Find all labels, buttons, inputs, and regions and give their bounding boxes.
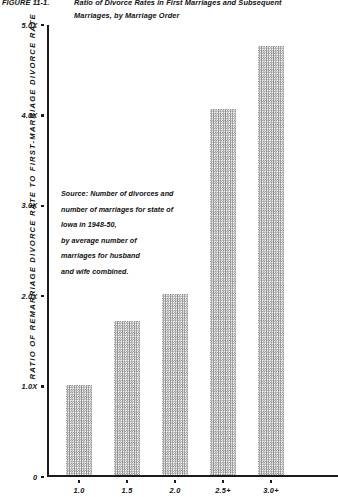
y-axis-tick-4: 4.0X: [0, 110, 47, 120]
bar-category-3[interactable]: [162, 294, 188, 475]
x-axis-tick-label: 3.0+: [246, 486, 296, 495]
source-note-line: marriages for husband: [61, 248, 221, 264]
x-axis-tick-3: 2.0: [150, 477, 200, 495]
tick-dot-icon: [41, 476, 44, 479]
x-axis-tick-label: 1.5: [102, 486, 152, 495]
y-axis-title: RATIO OF REMARRIAGE DIVORCE RATE TO FIRS…: [28, 80, 37, 380]
tick-dot-icon: [174, 480, 177, 483]
x-axis-tick-label: 2.5+: [198, 486, 248, 495]
x-axis-tick-label: 1.0: [54, 486, 104, 495]
tick-dot-icon: [222, 480, 225, 483]
tick-dot-icon: [41, 205, 44, 208]
bar-category-4[interactable]: [210, 109, 236, 475]
source-note-line: Iowa in 1948-50,: [61, 217, 221, 233]
x-axis-tick-4: 2.5+: [198, 477, 248, 495]
y-axis-tick-label: 0: [33, 473, 37, 482]
source-note-line: number of marriages for state of: [61, 202, 221, 218]
tick-dot-icon: [41, 24, 44, 27]
x-axis-tick-1: 1.0: [54, 477, 104, 495]
y-axis-tick-5: 5.0X: [0, 20, 47, 30]
x-axis-tick-label: 2.0: [150, 486, 200, 495]
source-note: Source: Number of divorces and number of…: [61, 186, 221, 279]
tick-dot-icon: [270, 480, 273, 483]
tick-dot-icon: [41, 114, 44, 117]
y-axis-line: [47, 25, 49, 477]
y-axis-tick-label: 2.0X: [21, 292, 37, 301]
y-axis-tick-label: 4.0X: [21, 111, 37, 120]
y-axis-tick-1: 1.0X: [0, 382, 47, 392]
source-note-line: by average number of: [61, 233, 221, 249]
bar-category-5[interactable]: [258, 46, 284, 475]
figure-title-line-2: Marriages, by Marriage Order: [74, 11, 180, 20]
x-axis-tick-5: 3.0+: [246, 477, 296, 495]
tick-dot-icon: [78, 480, 81, 483]
tick-dot-icon: [126, 480, 129, 483]
y-axis-tick-label: 1.0X: [21, 382, 37, 391]
x-axis-tick-2: 1.5: [102, 477, 152, 495]
source-note-line: Source: Number of divorces and: [61, 186, 221, 202]
tick-dot-icon: [41, 385, 44, 388]
bar-category-1[interactable]: [66, 385, 92, 475]
y-axis-tick-0: 0: [0, 472, 47, 482]
source-note-line: and wife combined.: [61, 264, 221, 280]
y-axis-tick-label: 5.0X: [21, 21, 37, 30]
figure-number-label: FIGURE 11-1.: [2, 0, 49, 7]
figure-title-line-1: Ratio of Divorce Rates in First Marriage…: [74, 0, 282, 7]
bar-category-2[interactable]: [114, 321, 140, 475]
figure-title-block: FIGURE 11-1. Ratio of Divorce Rates in F…: [0, 0, 338, 24]
y-axis-tick-3: 3.0X: [0, 201, 47, 211]
tick-dot-icon: [41, 295, 44, 298]
y-axis-tick-label: 3.0X: [21, 201, 37, 210]
y-axis-tick-2: 2.0X: [0, 291, 47, 301]
